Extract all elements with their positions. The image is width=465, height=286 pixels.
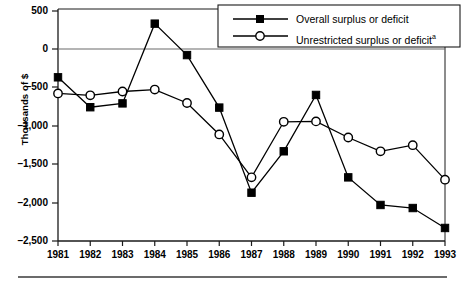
data-point-marker: [183, 99, 191, 107]
data-point-marker: [151, 85, 159, 93]
y-tick-label: 0: [0, 44, 48, 54]
data-point-marker: [216, 104, 223, 111]
data-point-marker: [86, 91, 94, 99]
data-point-marker: [119, 100, 126, 107]
data-point-marker: [312, 91, 319, 98]
chart-figure: Thousands of $ 5000–500–1,000–1,500–2,00…: [0, 0, 465, 286]
legend-marker-unrestricted: [256, 32, 264, 40]
series-line: [58, 90, 445, 180]
data-point-marker: [312, 117, 320, 125]
data-point-marker: [183, 51, 190, 58]
data-point-marker: [409, 141, 417, 149]
series-overall: [54, 20, 448, 232]
data-point-marker: [280, 118, 288, 126]
data-point-marker: [409, 204, 416, 211]
data-series-layer: [54, 20, 449, 232]
data-point-marker: [248, 189, 255, 196]
series-unrestricted: [54, 85, 449, 183]
data-point-marker: [215, 130, 223, 138]
legend-label-unrestricted-text: Unrestricted surplus or deficit: [296, 33, 432, 45]
x-axis-ticks: [58, 241, 445, 246]
series-line: [58, 24, 445, 228]
data-point-marker: [376, 147, 384, 155]
data-point-marker: [151, 20, 158, 27]
y-tick-label: –500: [0, 82, 48, 92]
y-axis-title: Thousands of $: [19, 50, 30, 170]
y-axis-ticks: [52, 11, 58, 241]
data-point-marker: [344, 133, 352, 141]
y-tick-label: 500: [0, 6, 48, 16]
data-point-marker: [345, 174, 352, 181]
legend-label-unrestricted: Unrestricted surplus or deficita: [296, 31, 436, 46]
legend-footnote-marker: a: [432, 33, 436, 40]
data-point-marker: [54, 74, 61, 81]
data-point-marker: [377, 201, 384, 208]
y-tick-label: –2,000: [0, 198, 48, 208]
x-tick-label: 1993: [425, 250, 465, 260]
data-point-marker: [441, 224, 448, 231]
y-tick-label: –2,500: [0, 236, 48, 246]
data-point-marker: [247, 173, 255, 181]
data-point-marker: [87, 104, 94, 111]
y-tick-label: –1,000: [0, 121, 48, 131]
data-point-marker: [54, 89, 62, 97]
data-point-marker: [441, 175, 449, 183]
data-point-marker: [118, 87, 126, 95]
y-tick-label: –1,500: [0, 159, 48, 169]
legend-marker-overall: [257, 16, 264, 23]
legend-label-overall: Overall surplus or deficit: [296, 14, 409, 25]
data-point-marker: [280, 148, 287, 155]
legend-label-overall-text: Overall surplus or deficit: [296, 13, 409, 25]
